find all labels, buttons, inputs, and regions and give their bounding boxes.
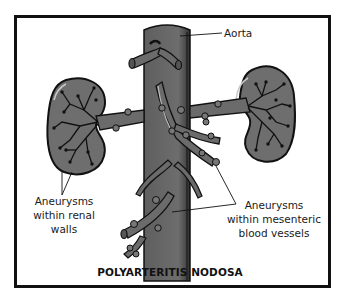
label-renal-line1: Aneurysms — [35, 195, 94, 207]
right-kidney-icon — [190, 66, 295, 161]
label-mesenteric-line2: within mesenteric — [227, 213, 321, 225]
label-mesenteric-line3: blood vessels — [239, 227, 310, 239]
label-renal-line2: within renal — [33, 209, 95, 221]
polyarteritis-diagram: Aorta Aneurysms within renal walls Aneur… — [0, 0, 338, 293]
label-mesenteric-line1: Aneurysms — [245, 199, 304, 211]
figure-title: POLYARTERITIS NODOSA — [97, 266, 243, 278]
label-renal-line3: walls — [51, 223, 77, 235]
label-aorta: Aorta — [224, 27, 252, 39]
anatomy-illustration: Aorta Aneurysms within renal walls Aneur… — [0, 0, 338, 293]
left-kidney-icon — [47, 78, 144, 174]
